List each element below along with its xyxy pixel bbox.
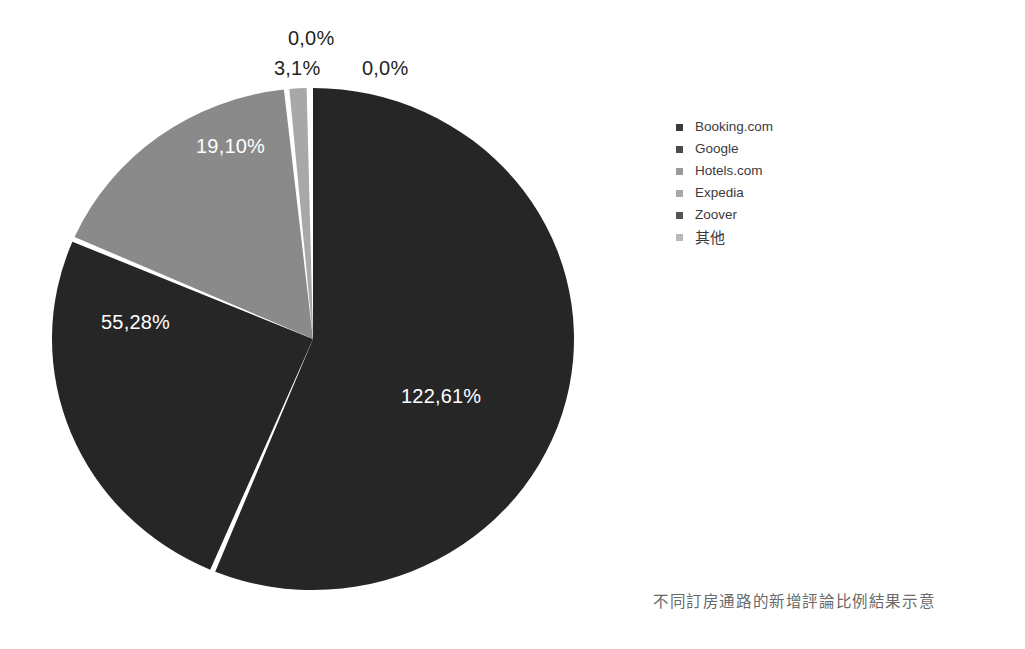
slice-label-zero-top: 0,0%: [288, 28, 334, 48]
legend-item-label: Hotels.com: [695, 164, 763, 178]
slice-label-three-one: 3,1%: [274, 58, 320, 78]
pie-slices-group: [52, 88, 574, 590]
legend-item-label: Booking.com: [695, 120, 773, 134]
legend-swatch-icon: [676, 190, 683, 197]
legend-item--[interactable]: 其他: [676, 226, 896, 248]
pie-chart-svg: [0, 0, 640, 649]
legend-item-expedia[interactable]: Expedia: [676, 182, 896, 204]
legend-item-booking-com[interactable]: Booking.com: [676, 116, 896, 138]
slice-label-other: 19,10%: [196, 136, 265, 156]
pie-chart-area: 0,0% 3,1% 0,0% 19,10% 55,28% 122,61%: [0, 0, 640, 649]
legend-swatch-icon: [676, 146, 683, 153]
legend-item-label: Google: [695, 142, 739, 156]
legend-item-label: Zoover: [695, 208, 737, 222]
chart-legend: Booking.comGoogleHotels.comExpediaZoover…: [676, 116, 896, 248]
legend-item-label: 其他: [695, 230, 725, 245]
legend-item-hotels-com[interactable]: Hotels.com: [676, 160, 896, 182]
chart-caption: 不同訂房通路的新增評論比例結果示意: [653, 589, 935, 611]
legend-swatch-icon: [676, 168, 683, 175]
legend-item-zoover[interactable]: Zoover: [676, 204, 896, 226]
legend-item-google[interactable]: Google: [676, 138, 896, 160]
slice-label-zoover: 55,28%: [101, 312, 170, 332]
legend-swatch-icon: [676, 124, 683, 131]
legend-item-label: Expedia: [695, 186, 744, 200]
legend-swatch-icon: [676, 212, 683, 219]
legend-swatch-icon: [676, 234, 683, 241]
slice-label-booking: 122,61%: [401, 386, 481, 406]
slice-label-zero-right: 0,0%: [362, 58, 408, 78]
